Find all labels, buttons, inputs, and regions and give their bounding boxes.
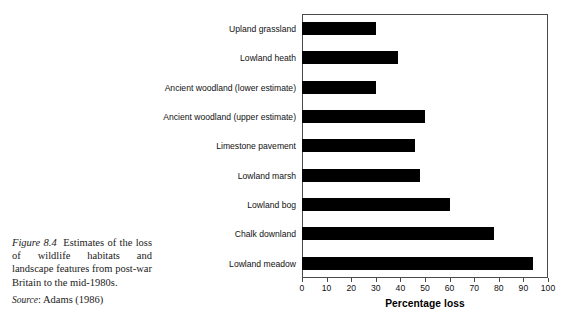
x-tick-mark bbox=[400, 278, 401, 282]
x-tick-mark bbox=[351, 278, 352, 282]
bars-container bbox=[302, 14, 548, 278]
x-tick-label: 40 bbox=[387, 283, 413, 293]
bar-row bbox=[302, 73, 548, 102]
bar-row bbox=[302, 190, 548, 219]
x-tick-label: 60 bbox=[437, 283, 463, 293]
x-tick-mark bbox=[499, 278, 500, 282]
bar-row bbox=[302, 161, 548, 190]
bar-row bbox=[302, 102, 548, 131]
bar bbox=[302, 139, 415, 152]
x-tick-mark bbox=[376, 278, 377, 282]
x-tick-label: 20 bbox=[338, 283, 364, 293]
x-tick-label: 50 bbox=[412, 283, 438, 293]
bar-row bbox=[302, 131, 548, 160]
bar bbox=[302, 169, 420, 182]
category-label: Ancient woodland (upper estimate) bbox=[110, 112, 296, 122]
category-label: Lowland meadow bbox=[110, 259, 296, 269]
x-tick-mark bbox=[548, 278, 549, 282]
category-label: Limestone pavement bbox=[110, 141, 296, 151]
x-tick-label: 80 bbox=[486, 283, 512, 293]
bar bbox=[302, 198, 450, 211]
bar-row bbox=[302, 14, 548, 43]
x-axis-title: Percentage loss bbox=[302, 298, 548, 309]
bar bbox=[302, 81, 376, 94]
x-tick-mark bbox=[302, 278, 303, 282]
category-label: Lowland heath bbox=[110, 53, 296, 63]
x-tick-label: 30 bbox=[363, 283, 389, 293]
category-label: Upland grassland bbox=[110, 24, 296, 34]
category-label: Ancient woodland (lower estimate) bbox=[110, 83, 296, 93]
bar-chart: Upland grasslandLowland heathAncient woo… bbox=[0, 0, 575, 330]
bar-row bbox=[302, 249, 548, 278]
bar bbox=[302, 110, 425, 123]
x-tick-label: 10 bbox=[314, 283, 340, 293]
bar bbox=[302, 227, 494, 240]
category-label: Lowland marsh bbox=[110, 171, 296, 181]
x-tick-label: 70 bbox=[461, 283, 487, 293]
x-tick-label: 100 bbox=[535, 283, 561, 293]
bar bbox=[302, 51, 398, 64]
bar-row bbox=[302, 43, 548, 72]
bar bbox=[302, 22, 376, 35]
category-axis-labels: Upland grasslandLowland heathAncient woo… bbox=[110, 14, 296, 278]
x-tick-mark bbox=[425, 278, 426, 282]
x-tick-mark bbox=[474, 278, 475, 282]
bar bbox=[302, 257, 533, 270]
x-tick-mark bbox=[523, 278, 524, 282]
bar-row bbox=[302, 219, 548, 248]
category-label: Chalk downland bbox=[110, 229, 296, 239]
x-tick-label: 90 bbox=[510, 283, 536, 293]
x-tick-mark bbox=[327, 278, 328, 282]
x-tick-mark bbox=[450, 278, 451, 282]
category-label: Lowland bog bbox=[110, 200, 296, 210]
x-tick-label: 0 bbox=[289, 283, 315, 293]
